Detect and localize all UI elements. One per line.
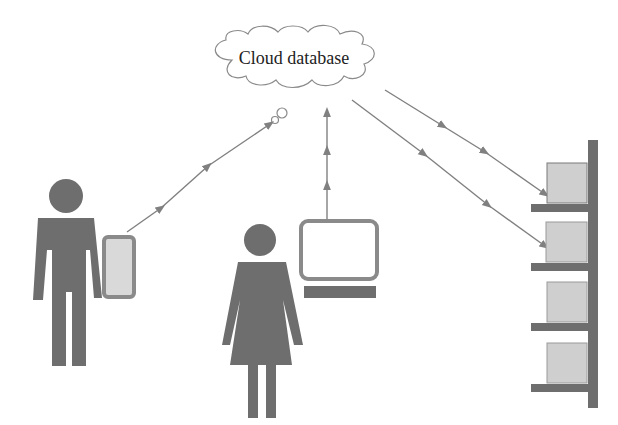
shelf-box-3 — [547, 282, 587, 322]
woman-head — [244, 224, 276, 256]
shelf-board-3 — [531, 323, 589, 331]
cloud-label: Cloud database — [239, 48, 349, 68]
shelf-board-1 — [531, 204, 589, 212]
arrow-tablet-to-cloud-1 — [127, 208, 161, 232]
arrow-cloud-to-box1-3 — [485, 152, 545, 194]
arrow-tablet-to-cloud-3 — [208, 124, 270, 166]
cloud-database: Cloud database — [215, 25, 374, 123]
shelf-box-2 — [546, 222, 587, 262]
monitor-icon — [301, 221, 377, 279]
woman-body — [222, 262, 303, 418]
arrow-cloud-to-box1-1 — [385, 90, 443, 126]
arrow-tablet-to-cloud-2 — [161, 166, 208, 208]
man-figure — [33, 179, 102, 366]
shelf-board-2 — [531, 263, 589, 271]
shelf-post — [588, 140, 598, 408]
man-body — [33, 218, 102, 366]
tablet-device — [104, 237, 134, 297]
shelf-board-4 — [531, 384, 589, 392]
shelf-box-1 — [547, 163, 587, 203]
shelf-box-4 — [547, 343, 587, 383]
arrow-cloud-to-box2-2 — [424, 154, 488, 205]
cloud-bubble-small — [272, 117, 279, 124]
keyboard-base-icon — [304, 286, 376, 298]
man-head — [49, 179, 83, 213]
cloud-bubble-large — [277, 108, 287, 118]
storage-shelf — [531, 140, 598, 408]
computer-device — [301, 221, 377, 298]
diagram-canvas: Cloud database — [0, 0, 618, 425]
arrow-cloud-to-box1-2 — [443, 126, 485, 152]
tablet-icon — [104, 237, 134, 297]
woman-figure — [222, 224, 303, 418]
